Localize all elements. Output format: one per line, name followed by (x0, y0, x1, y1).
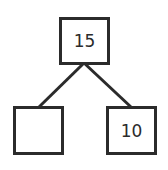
left-connector (39, 63, 84, 107)
root-node-value: 15 (74, 31, 96, 51)
right-connector (84, 63, 131, 107)
right-child-node-box: 10 (106, 106, 157, 155)
root-node-box: 15 (59, 17, 110, 65)
right-child-node-value: 10 (121, 121, 143, 141)
left-child-node-box (13, 106, 64, 155)
